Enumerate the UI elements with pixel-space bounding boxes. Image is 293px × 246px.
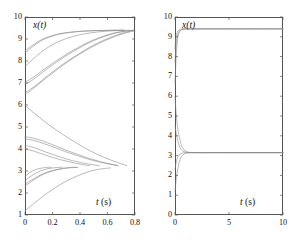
x-tick-label: 0.6	[99, 219, 117, 227]
trajectory-curve	[175, 126, 283, 153]
y-tick-label: 4	[4, 145, 22, 153]
y-tick-label: 2	[4, 189, 22, 197]
y-tick-label: 8	[154, 53, 172, 61]
x-tick-label: 0	[166, 219, 184, 227]
left-x-axis-label: t (s)	[96, 198, 111, 208]
trajectory-curve	[25, 30, 124, 51]
trajectory-curve	[175, 29, 283, 84]
x-tick-label: 0.4	[71, 219, 89, 227]
y-tick-label: 1	[154, 191, 172, 199]
y-tick-label: 4	[154, 132, 172, 140]
y-tick-label: 10	[4, 13, 22, 21]
y-tick-label: 1	[4, 211, 22, 219]
y-tick-label: 9	[154, 33, 172, 41]
y-tick-label: 6	[4, 101, 22, 109]
trajectory-curve	[25, 167, 77, 186]
trajectory-curve	[25, 137, 119, 166]
y-tick-label: 8	[4, 57, 22, 65]
y-tick-label: 7	[154, 72, 172, 80]
y-tick-label: 6	[154, 92, 172, 100]
y-tick-label: 3	[4, 167, 22, 175]
x-tick-label: 0	[16, 219, 34, 227]
y-tick-label: 2	[154, 171, 172, 179]
trajectory-curve	[25, 30, 134, 84]
y-tick-label: 5	[154, 112, 172, 120]
trajectory-curve	[175, 153, 283, 170]
y-tick-label: 3	[154, 152, 172, 160]
trajectory-curve	[175, 96, 283, 152]
trajectory-curve	[175, 153, 283, 192]
left-y-axis-label: x(t)	[33, 21, 46, 31]
right-plot-panel: 0510012345678910 x(t) t (s)	[146, 0, 293, 246]
trajectory-curve	[175, 29, 283, 49]
x-tick-label: 0.8	[126, 219, 144, 227]
figure-container: 00.20.40.60.812345678910 x(t) t (s) 0510…	[0, 0, 293, 246]
trajectory-curve	[25, 30, 134, 82]
x-tick-label: 0.2	[44, 219, 62, 227]
trajectory-curve	[25, 105, 127, 166]
trajectory-curve	[25, 167, 77, 184]
right-x-axis-label: t (s)	[240, 198, 255, 208]
y-tick-label: 10	[154, 13, 172, 21]
trajectory-curve	[25, 30, 130, 66]
y-tick-label: 7	[4, 79, 22, 87]
right-y-axis-label: x(t)	[182, 21, 195, 31]
trajectory-curve	[175, 29, 283, 63]
trajectory-curve	[25, 149, 90, 166]
left-plot-panel: 00.20.40.60.812345678910 x(t) t (s)	[0, 0, 147, 246]
y-tick-label: 9	[4, 35, 22, 43]
y-tick-label: 0	[154, 211, 172, 219]
y-tick-label: 5	[4, 123, 22, 131]
x-tick-label: 5	[220, 219, 238, 227]
x-tick-label: 10	[274, 219, 292, 227]
